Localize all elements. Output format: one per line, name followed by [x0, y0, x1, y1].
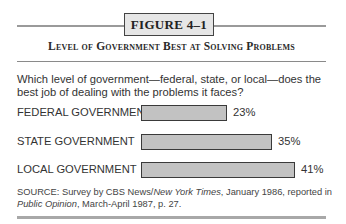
bar-value-label: 41% — [301, 163, 323, 175]
bar-label: LOCAL GOVERNMENT — [17, 163, 137, 175]
figure-label-box: FIGURE 4–1 — [124, 13, 214, 36]
chart-title: Level of Government Best at Solving Prob… — [17, 40, 326, 52]
bar-row: LOCAL GOVERNMENT41% — [17, 162, 337, 178]
bar-label: FEDERAL GOVERNMENT — [17, 106, 151, 118]
source-note: SOURCE: Survey by CBS News/New York Time… — [17, 186, 332, 210]
bar-row: FEDERAL GOVERNMENT23% — [17, 105, 337, 121]
source-publication: New York Times — [153, 187, 220, 197]
figure-bottom-rule — [17, 216, 326, 219]
source-suffix: , March-April 1987, p. 27. — [77, 199, 181, 209]
source-journal: Public Opinion — [17, 199, 77, 209]
bar-value-label: 35% — [278, 135, 300, 147]
bar-value-label: 23% — [233, 106, 255, 118]
title-divider — [17, 61, 326, 62]
survey-question: Which level of government—federal, state… — [17, 73, 332, 99]
source-middle: , January 1986, reported in — [221, 187, 332, 197]
bar — [141, 105, 227, 121]
bar-row: STATE GOVERNMENT35% — [17, 134, 337, 150]
figure-label: FIGURE 4–1 — [131, 17, 207, 33]
source-prefix: SOURCE: Survey by CBS News/ — [17, 187, 153, 197]
bar — [141, 162, 295, 178]
bar — [141, 134, 272, 150]
bar-label: STATE GOVERNMENT — [17, 135, 135, 147]
